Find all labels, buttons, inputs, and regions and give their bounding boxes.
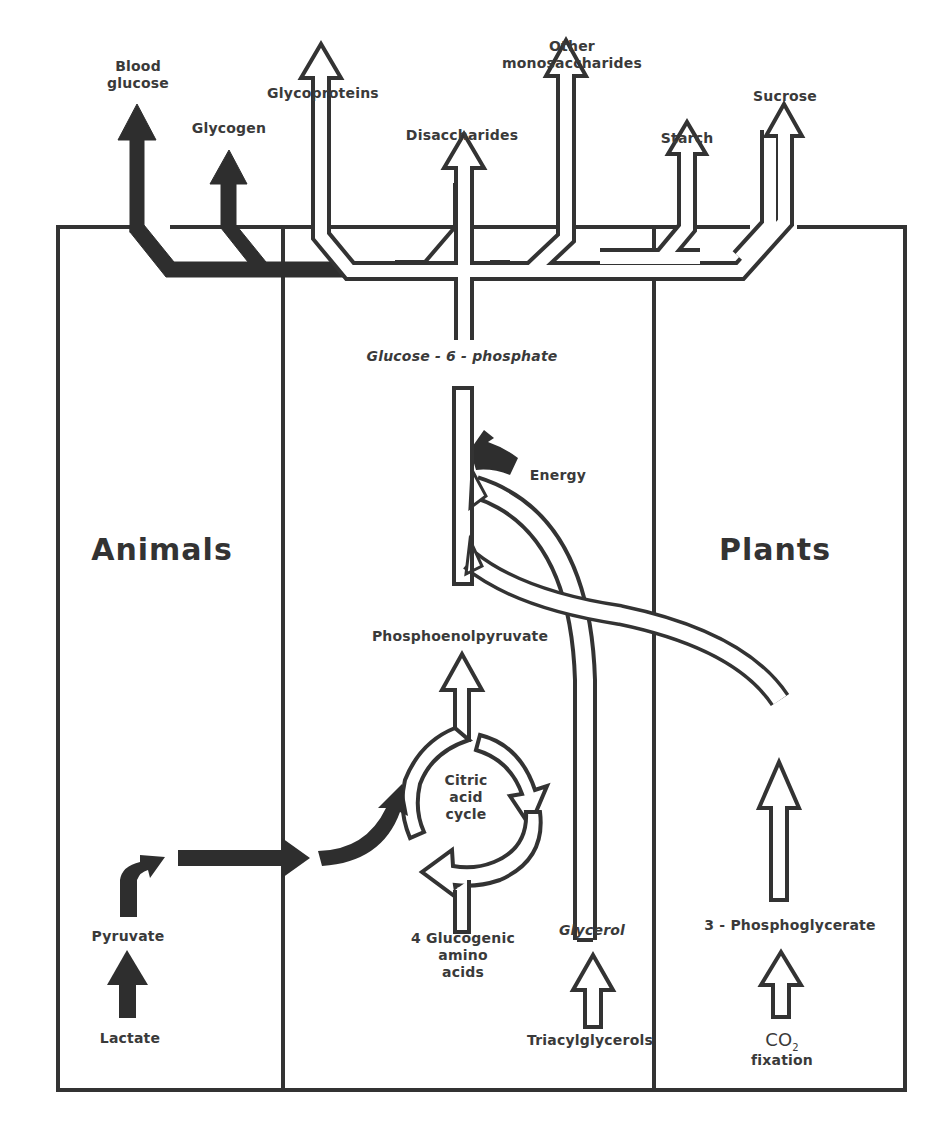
shared-output-arrows: [395, 185, 510, 262]
label-fixation: fixation: [751, 1052, 813, 1069]
label-energy: Energy: [530, 467, 586, 484]
label-blood-glucose: Blood glucose: [107, 58, 169, 92]
label-glycerol: Glycerol: [559, 922, 625, 939]
cycle-arc-bottom: [422, 812, 541, 898]
label-glycoproteins: Glycoproteins: [267, 85, 379, 102]
label-starch: Starch: [661, 130, 714, 147]
sucrose-arrowhead-icon: [766, 104, 802, 136]
pyruvate-long-arrow-icon: [178, 838, 310, 878]
label-3-phosphoglycerate: 3 - Phosphoglycerate: [704, 917, 875, 934]
pyruvate-to-cycle-arrow-icon: [318, 784, 408, 866]
label-pyruvate: Pyruvate: [92, 928, 165, 945]
label-glycogen: Glycogen: [192, 120, 266, 137]
label-lactate: Lactate: [100, 1030, 160, 1047]
energy-arrow: [470, 430, 518, 475]
pyruvate-path: [107, 784, 408, 1018]
co2-fixation-arrow-icon: [761, 952, 801, 1017]
label-disaccharides: Disaccharides: [406, 127, 518, 144]
energy-arrow-icon: [470, 430, 518, 475]
region-label-plants: Plants: [719, 533, 831, 567]
phosphoglycerate-up-arrow-icon: [759, 762, 799, 900]
label-other-monosaccharides: Other monosaccharides: [502, 38, 642, 72]
glycogen-shaft: [221, 180, 266, 262]
blood-glucose-shaft: [130, 136, 144, 232]
metabolic-pathway-diagram: Blood glucose Glycogen Glycoproteins Dis…: [0, 0, 950, 1146]
glycogen-arrowhead-icon: [210, 150, 247, 184]
pyruvate-bent-arrow-icon: [120, 855, 165, 917]
label-glucogenic-amino-acids: 4 Glucogenic amino acids: [411, 930, 515, 981]
white-pathways: [321, 70, 784, 340]
white-bus-upper-1: [395, 185, 510, 262]
triacylglycerol-arrow-icon: [573, 955, 613, 1027]
label-triacylglycerols: Triacylglycerols: [527, 1032, 653, 1049]
region-label-animals: Animals: [91, 533, 233, 567]
label-phosphoenolpyruvate: Phosphoenolpyruvate: [372, 628, 548, 645]
plants-arrows: [759, 762, 801, 1017]
blood-glucose-arrowhead-icon: [118, 104, 156, 140]
lactate-arrowhead-icon: [107, 950, 148, 985]
label-sucrose: Sucrose: [753, 88, 817, 105]
lactate-shaft: [119, 980, 136, 1018]
label-citric-acid-cycle: Citric acid cycle: [445, 772, 488, 823]
pep-arrowhead-icon: [442, 654, 482, 740]
label-glucose-6-phosphate: Glucose - 6 - phosphate: [366, 348, 557, 365]
triacylglycerol-arrow: [573, 955, 613, 1027]
